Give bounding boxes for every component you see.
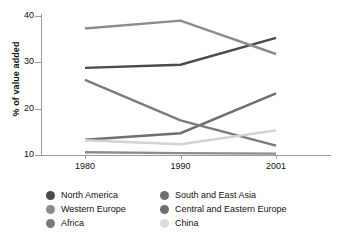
legend-swatch-icon	[160, 205, 169, 214]
chart-legend: North AmericaSouth and East AsiaWestern …	[46, 190, 336, 229]
legend-item[interactable]: China	[160, 218, 336, 229]
y-tick	[35, 155, 41, 156]
legend-item[interactable]: Western Europe	[46, 204, 154, 215]
y-axis-title: % of value added	[11, 19, 21, 139]
legend-swatch-icon	[46, 219, 55, 228]
series-line	[85, 21, 276, 54]
legend-label: Africa	[61, 218, 84, 229]
x-tick-label: 1990	[170, 161, 190, 171]
series-line	[85, 152, 276, 153]
y-tick-label: 20	[14, 103, 34, 113]
legend-item[interactable]: Africa	[46, 218, 154, 229]
x-tick-label: 2001	[266, 161, 286, 171]
series-line	[85, 80, 276, 146]
y-tick-label: 30	[14, 56, 34, 66]
y-tick-label: 10	[14, 149, 34, 159]
x-tick	[85, 155, 86, 159]
y-tick	[35, 62, 41, 63]
legend-label: Central and Eastern Europe	[175, 204, 287, 215]
legend-item[interactable]: Central and Eastern Europe	[160, 204, 336, 215]
legend-item[interactable]: South and East Asia	[160, 190, 336, 201]
series-line	[85, 38, 276, 68]
legend-label: North America	[61, 190, 118, 201]
line-chart: % of value added 10203040 198019902001 N…	[0, 0, 347, 244]
series-line	[85, 93, 276, 139]
y-tick	[35, 109, 41, 110]
y-tick-label: 40	[14, 10, 34, 20]
y-tick	[35, 16, 41, 17]
x-tick	[276, 155, 277, 159]
legend-label: China	[175, 218, 199, 229]
series-line	[85, 130, 276, 144]
legend-swatch-icon	[160, 191, 169, 200]
legend-swatch-icon	[160, 219, 169, 228]
legend-swatch-icon	[46, 205, 55, 214]
x-tick	[181, 155, 182, 159]
x-tick-label: 1980	[75, 161, 95, 171]
y-axis-line	[41, 14, 42, 156]
legend-label: Western Europe	[61, 204, 126, 215]
legend-swatch-icon	[46, 191, 55, 200]
legend-item[interactable]: North America	[46, 190, 154, 201]
legend-label: South and East Asia	[175, 190, 256, 201]
